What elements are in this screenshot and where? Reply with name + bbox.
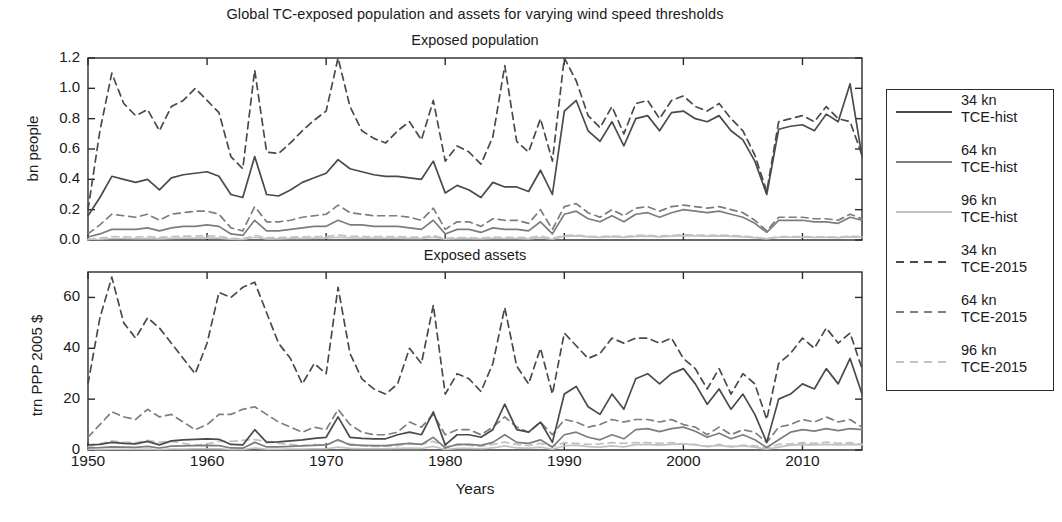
x-tick-label: 1950 [48, 452, 128, 470]
y-tick-label: 40 [28, 338, 80, 355]
axes-frame-bottom [88, 272, 862, 450]
x-tick-label: 1990 [524, 452, 604, 470]
legend-label-line1: 96 kn [961, 342, 1027, 359]
legend-item[interactable]: 64 knTCE-hist [887, 140, 1053, 190]
legend-line-swatch [895, 203, 953, 213]
x-tick-label: 1970 [286, 452, 366, 470]
x-tick-label: 1980 [405, 452, 485, 470]
series-group-top [88, 58, 862, 240]
legend-label-line1: 96 kn [961, 192, 1017, 209]
y-tick-label: 1.2 [28, 48, 80, 65]
legend-line-swatch [895, 353, 953, 363]
legend-line-swatch [895, 253, 953, 263]
legend-label-line1: 34 kn [961, 92, 1017, 109]
legend-item[interactable]: 34 knTCE-hist [887, 90, 1053, 140]
legend-item[interactable]: 34 knTCE-2015 [887, 240, 1053, 290]
y-tick-label: 0.6 [28, 139, 80, 156]
legend-label-line1: 34 kn [961, 242, 1027, 259]
legend-label: 64 knTCE-2015 [961, 292, 1027, 326]
legend-label-line1: 64 kn [961, 292, 1027, 309]
legend-label-line2: TCE-hist [961, 159, 1017, 176]
legend-label: 34 knTCE-hist [961, 92, 1017, 126]
y-tick-label: 0.8 [28, 109, 80, 126]
data-series-line [88, 84, 862, 216]
legend-label-line1: 64 kn [961, 142, 1017, 159]
x-tick-label: 2000 [643, 452, 723, 470]
legend-label: 96 knTCE-hist [961, 192, 1017, 226]
legend-item[interactable]: 96 knTCE-hist [887, 190, 1053, 240]
legend: 34 knTCE-hist64 knTCE-hist96 knTCE-hist3… [886, 89, 1054, 391]
legend-label-line2: TCE-2015 [961, 359, 1027, 376]
data-series-line [88, 58, 862, 210]
legend-line-swatch [895, 303, 953, 313]
figure: Global TC-exposed population and assets … [0, 0, 1062, 522]
y-tick-label: 0.4 [28, 169, 80, 186]
y-tick-label: 0.2 [28, 200, 80, 217]
y-tick-label: 0.0 [28, 230, 80, 247]
legend-label: 96 knTCE-2015 [961, 342, 1027, 376]
series-group-bottom [88, 277, 862, 449]
legend-label-line2: TCE-2015 [961, 259, 1027, 276]
data-series-line [88, 407, 862, 443]
y-tick-label: 60 [28, 287, 80, 304]
legend-line-swatch [895, 153, 953, 163]
legend-line-swatch [895, 103, 953, 113]
legend-item[interactable]: 64 knTCE-2015 [887, 290, 1053, 340]
legend-item[interactable]: 96 knTCE-2015 [887, 340, 1053, 390]
legend-label-line2: TCE-hist [961, 109, 1017, 126]
y-tick-label: 20 [28, 389, 80, 406]
legend-label: 34 knTCE-2015 [961, 242, 1027, 276]
legend-label-line2: TCE-hist [961, 209, 1017, 226]
x-tick-label: 1960 [167, 452, 247, 470]
legend-label: 64 knTCE-hist [961, 142, 1017, 176]
legend-label-line2: TCE-2015 [961, 309, 1027, 326]
axes-frame-top [88, 58, 862, 240]
y-tick-label: 1.0 [28, 78, 80, 95]
x-tick-label: 2010 [762, 452, 842, 470]
